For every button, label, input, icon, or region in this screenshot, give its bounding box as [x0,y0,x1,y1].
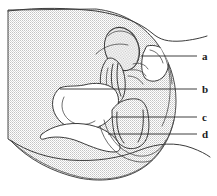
figure-labels: a b c d [202,50,208,140]
label-b: b [202,83,208,95]
label-a: a [202,50,208,62]
label-d: d [202,128,208,140]
diagram-canvas: a b c d [0,0,217,196]
label-c: c [202,111,207,123]
anatomical-figure: a b c d [0,0,217,196]
organ-vaginal-canal [112,99,149,149]
